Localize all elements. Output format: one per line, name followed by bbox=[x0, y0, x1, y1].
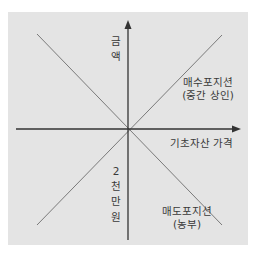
long-position-title: 매수포지션 bbox=[178, 76, 238, 89]
y-label-char: 원 bbox=[109, 210, 123, 225]
y-axis-label-top: 금 액 bbox=[109, 34, 123, 64]
y-label-char: 액 bbox=[109, 49, 123, 64]
long-position-label: 매수포지션 (중간 상인) bbox=[178, 76, 238, 102]
short-position-subtitle: (농부) bbox=[157, 218, 217, 231]
long-position-subtitle: (중간 상인) bbox=[178, 89, 238, 102]
y-axis-arrow-icon bbox=[125, 20, 132, 29]
x-axis-arrow-icon bbox=[232, 126, 241, 133]
y-label-char: 2 bbox=[109, 164, 123, 179]
short-position-label: 매도포지션 (농부) bbox=[157, 205, 217, 231]
y-axis-label-bottom: 2 천 만 원 bbox=[109, 164, 123, 225]
x-axis-label: 기초자산 가격 bbox=[170, 137, 233, 150]
short-position-title: 매도포지션 bbox=[157, 205, 217, 218]
y-label-char: 금 bbox=[109, 34, 123, 49]
y-label-char: 만 bbox=[109, 194, 123, 209]
y-label-char: 천 bbox=[109, 179, 123, 194]
